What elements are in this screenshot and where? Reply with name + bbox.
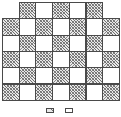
grid-cell xyxy=(102,35,120,52)
grid-cell xyxy=(35,84,53,101)
grid-cell xyxy=(19,51,37,68)
grid-cell xyxy=(35,51,53,68)
grid-cell xyxy=(35,67,53,84)
grid-cell xyxy=(102,18,120,35)
grid-cell xyxy=(52,84,70,101)
grid-cell xyxy=(35,35,53,52)
grid-cell xyxy=(86,35,104,52)
grid-cell xyxy=(2,84,20,101)
grid-cell xyxy=(35,18,53,35)
grid-cell xyxy=(52,35,70,52)
grid-cell xyxy=(2,35,20,52)
grid-cell xyxy=(86,67,104,84)
grid-cell xyxy=(86,51,104,68)
grid-cell xyxy=(35,2,53,19)
grid-cell xyxy=(19,35,37,52)
legend-item-plain xyxy=(65,108,75,113)
grid-cell xyxy=(102,67,120,84)
legend-item-hatched xyxy=(46,108,56,113)
grid-cell xyxy=(69,67,87,84)
grid-cell xyxy=(102,51,120,68)
grid-cell xyxy=(86,18,104,35)
grid-cell xyxy=(52,67,70,84)
grid-cell xyxy=(69,51,87,68)
grid-cell xyxy=(86,84,104,101)
grid-cell xyxy=(86,2,104,19)
grid-cell xyxy=(69,18,87,35)
grid-cell xyxy=(19,2,37,19)
grid-cell xyxy=(52,2,70,19)
legend xyxy=(0,104,121,117)
grid-cell xyxy=(69,84,87,101)
grid-cell xyxy=(2,18,20,35)
grid-cell xyxy=(69,2,87,19)
grid-cell xyxy=(2,67,20,84)
checkerboard-figure xyxy=(0,0,121,117)
grid-cell xyxy=(52,18,70,35)
grid-cell xyxy=(19,84,37,101)
grid-cell xyxy=(19,18,37,35)
grid-cell xyxy=(69,35,87,52)
grid-cell xyxy=(19,67,37,84)
legend-swatch-plain-icon xyxy=(65,108,73,113)
grid-cell xyxy=(52,51,70,68)
grid-cell xyxy=(2,51,20,68)
checkerboard-grid xyxy=(2,2,119,100)
grid-cell xyxy=(102,84,120,101)
legend-swatch-hatched-icon xyxy=(46,108,54,113)
